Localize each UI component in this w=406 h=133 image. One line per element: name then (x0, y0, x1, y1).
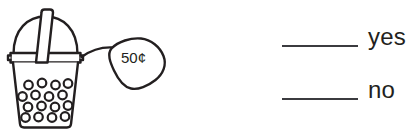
boba-pearl (51, 81, 60, 90)
answer-option-label-yes: yes (368, 25, 406, 49)
answer-option-yes[interactable]: yes (282, 25, 406, 49)
answer-options-list: yes no (262, 0, 395, 133)
answer-option-label-no: no (368, 78, 395, 102)
boba-pearl (58, 91, 67, 100)
boba-pearl (24, 103, 33, 112)
bubble-tea-illustration: 50¢ (0, 0, 260, 133)
cup-lid-rim-tab-left (8, 56, 11, 61)
boba-pearl (51, 103, 60, 112)
boba-pearl (37, 102, 46, 111)
boba-pearl (61, 112, 70, 121)
boba-pearl (48, 113, 57, 122)
answer-option-no[interactable]: no (282, 78, 395, 102)
boba-pearl (18, 92, 27, 101)
boba-pearl (38, 79, 47, 88)
boba-pearl (24, 81, 33, 90)
boba-pearl (64, 101, 73, 110)
price-tag-value: 50¢ (121, 49, 146, 66)
boba-pearl (64, 79, 73, 88)
boba-pearl (21, 113, 30, 122)
boba-pearl (45, 92, 54, 101)
boba-pearl (34, 113, 43, 122)
answer-blank-line-yes[interactable] (282, 45, 358, 47)
boba-pearl (31, 91, 40, 100)
answer-blank-line-no[interactable] (282, 98, 358, 100)
